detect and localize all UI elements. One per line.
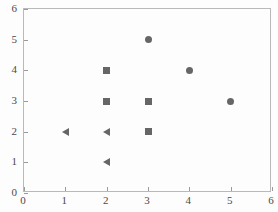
data-point-circle-5-3 (227, 98, 234, 105)
y-tick-label-4: 4 (0, 63, 17, 75)
x-tick-2 (107, 187, 108, 191)
x-tick-3 (148, 187, 149, 191)
plot-area (23, 8, 271, 192)
y-tick-label-2: 2 (0, 125, 17, 137)
data-point-square-2-4 (103, 67, 110, 74)
x-tick-0 (24, 187, 25, 191)
data-point-square-3-2 (145, 128, 152, 135)
data-point-triangle-left-2-1 (103, 158, 110, 166)
x-tick-4 (189, 187, 190, 191)
x-tick-label-4: 4 (176, 194, 200, 206)
x-tick-label-6: 6 (259, 194, 278, 206)
y-tick-5 (24, 40, 28, 41)
data-point-square-3-3 (145, 98, 152, 105)
data-point-circle-4-4 (186, 67, 193, 74)
data-point-square-2-3 (103, 98, 110, 105)
data-point-triangle-left-2-2 (103, 128, 110, 136)
y-tick-1 (24, 162, 28, 163)
x-tick-label-2: 2 (94, 194, 118, 206)
y-tick-label-1: 1 (0, 155, 17, 167)
x-tick-1 (65, 187, 66, 191)
y-tick-label-0: 0 (0, 186, 17, 198)
scatter-plot-figure: 0123456 0123456 (0, 0, 278, 212)
y-tick-4 (24, 70, 28, 71)
y-tick-label-6: 6 (0, 2, 17, 14)
y-tick-label-3: 3 (0, 94, 17, 106)
y-tick-6 (24, 9, 28, 10)
x-tick-6 (272, 187, 273, 191)
data-point-triangle-left-1-2 (62, 128, 69, 136)
x-tick-label-3: 3 (135, 194, 159, 206)
y-tick-label-5: 5 (0, 33, 17, 45)
x-tick-5 (231, 187, 232, 191)
x-tick-label-1: 1 (52, 194, 76, 206)
y-tick-3 (24, 101, 28, 102)
data-point-circle-3-5 (145, 36, 152, 43)
y-tick-2 (24, 132, 28, 133)
x-tick-label-5: 5 (218, 194, 242, 206)
